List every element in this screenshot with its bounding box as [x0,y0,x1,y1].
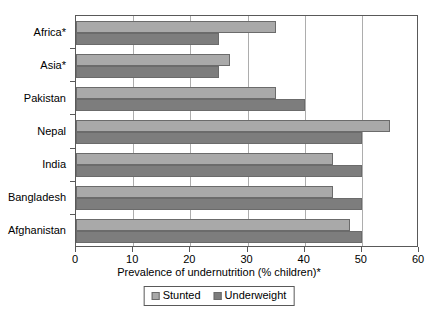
bar-underweight-bangladesh [76,198,362,210]
x-tick [75,247,76,252]
x-tick-label: 60 [398,253,438,265]
bar-underweight-africa [76,33,219,45]
bar-stunted-pakistan [76,87,276,99]
bars-layer [76,16,417,246]
bar-underweight-nepal [76,132,362,144]
bar-stunted-bangladesh [76,186,333,198]
category-label-bangladesh: Bangladesh [8,191,66,203]
x-tick-label: 50 [341,253,381,265]
bar-stunted-asia [76,54,230,66]
category-axis: Africa*Asia*PakistanNepalIndiaBangladesh… [0,15,72,247]
x-tick-label: 40 [284,253,324,265]
legend-swatch-underweight-icon [214,292,222,300]
category-label-asia: Asia* [40,59,66,71]
bar-stunted-nepal [76,120,390,132]
legend-label-stunted: Stunted [163,289,201,302]
legend-item-underweight: Underweight [214,289,287,302]
bar-stunted-africa [76,21,276,33]
legend-swatch-stunted-icon [152,292,160,300]
category-label-pakistan: Pakistan [24,92,66,104]
x-axis-title: Prevalence of undernutrition (% children… [0,266,438,279]
bar-stunted-india [76,153,333,165]
category-label-afghanistan: Afghanistan [8,224,66,236]
x-tick [361,247,362,252]
plot-area [75,15,418,247]
chart-legend: Stunted Underweight [144,286,295,306]
x-tick-label: 20 [169,253,209,265]
x-tick-label: 10 [112,253,152,265]
bar-stunted-afghanistan [76,219,350,231]
category-label-africa: Africa* [34,26,66,38]
bar-chart: Africa*Asia*PakistanNepalIndiaBangladesh… [0,0,438,313]
x-tick-label: 0 [55,253,95,265]
category-label-nepal: Nepal [37,125,66,137]
x-axis-tick-labels: 0102030405060 [0,253,438,267]
x-tick [132,247,133,252]
bar-underweight-india [76,165,362,177]
x-axis-ticks [75,247,418,252]
x-tick [189,247,190,252]
x-tick-label: 30 [227,253,267,265]
legend-label-underweight: Underweight [225,289,287,302]
category-label-india: India [42,158,66,170]
legend-item-stunted: Stunted [152,289,201,302]
bar-underweight-pakistan [76,99,305,111]
bar-underweight-afghanistan [76,231,362,243]
x-tick [304,247,305,252]
x-tick [247,247,248,252]
x-tick [418,247,419,252]
bar-underweight-asia [76,66,219,78]
